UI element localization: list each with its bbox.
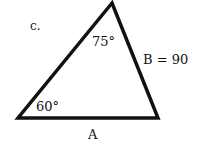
side-b-label: B = 90 <box>143 53 188 66</box>
triangle-diagram: c. 75° B = 90 60° A <box>0 0 202 151</box>
problem-label: c. <box>30 20 41 32</box>
angle-top-label: 75° <box>92 35 115 48</box>
angle-bottom-left-label: 60° <box>36 100 59 113</box>
side-a-label: A <box>88 128 97 141</box>
